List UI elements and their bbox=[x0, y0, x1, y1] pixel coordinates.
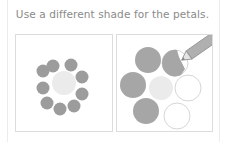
petal-empty bbox=[164, 103, 190, 129]
example-flower-illustration bbox=[16, 35, 112, 131]
flower-center bbox=[149, 76, 173, 100]
example-panel bbox=[15, 34, 113, 132]
petal-filled bbox=[133, 98, 159, 124]
petal-empty bbox=[175, 75, 201, 101]
petal-filled bbox=[135, 47, 161, 73]
petal-filled bbox=[120, 72, 146, 98]
pencil-icon bbox=[179, 35, 212, 64]
instruction-text: Use a different shade for the petals. bbox=[0, 8, 225, 20]
exercise-panel bbox=[116, 34, 213, 132]
flower-center bbox=[52, 71, 76, 95]
exercise-flower-illustration bbox=[117, 35, 212, 131]
